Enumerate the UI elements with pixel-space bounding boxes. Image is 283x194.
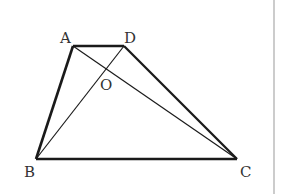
side-DC [124,46,237,159]
vertex-label-A: A [59,29,71,47]
intersection-label-O: O [100,76,112,94]
geometry-diagram: A D O B C [0,0,283,194]
vertex-label-C: C [240,163,251,181]
trapezoid-figure: A D O B C [0,0,283,194]
diagonal-BD [36,46,124,159]
diagonal-AC [73,46,237,159]
side-AB [36,46,73,159]
vertex-label-B: B [24,163,35,181]
vertex-label-D: D [124,29,136,47]
